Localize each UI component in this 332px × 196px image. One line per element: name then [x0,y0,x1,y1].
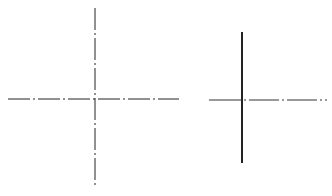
left-crosshair [8,8,179,185]
right-crosshair [209,32,327,163]
diagram-canvas [0,0,332,196]
